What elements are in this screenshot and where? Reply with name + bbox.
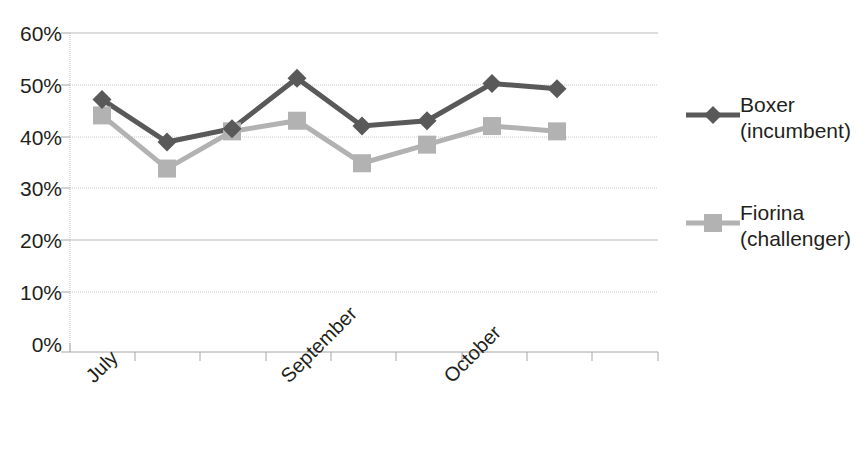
legend-key-square-icon [686, 212, 740, 234]
data-point-fiorina [158, 160, 176, 178]
data-point-fiorina [548, 122, 566, 140]
data-point-fiorina [418, 136, 436, 154]
legend-label-boxer-name: Boxer [740, 92, 862, 118]
data-point-fiorina [288, 112, 306, 130]
legend-label-fiorina-sub: (challenger) [740, 226, 862, 252]
y-axis-line [61, 33, 70, 352]
data-point-boxer [548, 79, 567, 98]
x-axis-line [70, 343, 658, 361]
data-point-fiorina [483, 117, 501, 135]
legend-label-boxer: Boxer (incumbent) [740, 92, 862, 144]
data-point-fiorina [353, 154, 371, 172]
line-chart: 60% 50% 40% 30% 20% 10% 0% [0, 0, 862, 466]
legend-key-diamond-icon [686, 104, 740, 126]
data-point-fiorina [93, 106, 111, 124]
legend-label-fiorina-name: Fiorina [740, 200, 862, 226]
legend-label-fiorina: Fiorina (challenger) [740, 200, 862, 252]
legend-label-boxer-sub: (incumbent) [740, 118, 862, 144]
